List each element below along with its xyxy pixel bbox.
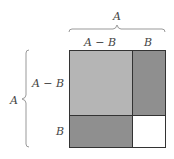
top-brace-icon xyxy=(69,25,165,32)
right-rectangle-region xyxy=(132,50,166,116)
top-brace-label: A xyxy=(113,11,121,22)
left-brace-label: A xyxy=(10,95,18,106)
top-label-a-minus-b: A − B xyxy=(84,37,116,48)
large-square-region xyxy=(69,50,133,116)
small-square-region xyxy=(132,115,166,148)
left-label-a-minus-b: A − B xyxy=(32,78,64,89)
bottom-rectangle-region xyxy=(69,115,133,148)
left-brace-icon xyxy=(22,50,29,147)
left-label-b: B xyxy=(56,126,64,137)
top-label-b: B xyxy=(144,37,152,48)
